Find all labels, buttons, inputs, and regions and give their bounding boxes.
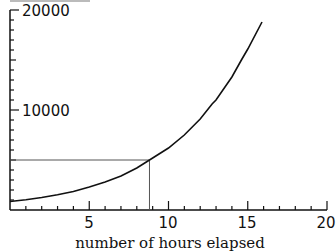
- y-tick-label-10000: 10000: [22, 102, 70, 120]
- x-tick-label-20: 20: [316, 214, 335, 232]
- x-tick-label-5: 5: [84, 214, 94, 232]
- chart: 20000 10000 5 10 15 20 number of hours e…: [0, 0, 336, 252]
- x-tick-label-10: 10: [158, 214, 177, 232]
- x-axis-label: number of hours elapsed: [75, 234, 265, 252]
- y-axis-ticks: [10, 10, 19, 200]
- y-tick-label-20000: 20000: [22, 2, 70, 20]
- x-axis-ticks: [26, 201, 327, 210]
- x-tick-label-15: 15: [237, 214, 256, 232]
